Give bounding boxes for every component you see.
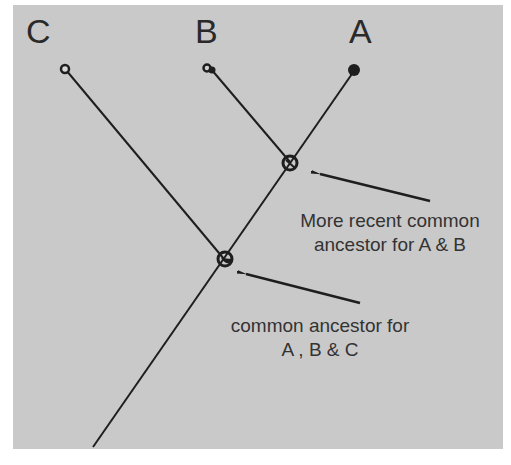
branch-B (211, 69, 290, 162)
arrow-to-ab (320, 174, 430, 201)
leaf-label-B: B (195, 14, 218, 48)
arrow-to-abc (246, 274, 360, 303)
leaf-label-C: C (26, 14, 51, 48)
node-ancestor-ab (283, 156, 297, 170)
leaf-node-B (204, 65, 216, 74)
annotation-recent-line1: More recent common (270, 209, 510, 233)
branch-C (66, 70, 224, 259)
leaf-node-A (348, 64, 360, 76)
annotation-recent-ancestor: More recent common ancestor for A & B (270, 209, 510, 257)
annotation-common-line2: A , B & C (205, 338, 435, 362)
annotation-recent-line2: ancestor for A & B (270, 233, 510, 257)
leaf-label-A: A (349, 14, 372, 48)
leaf-node-C (61, 65, 69, 73)
node-ancestor-abc (218, 252, 232, 266)
annotation-common-line1: common ancestor for (205, 314, 435, 338)
annotation-common-ancestor: common ancestor for A , B & C (205, 314, 435, 362)
